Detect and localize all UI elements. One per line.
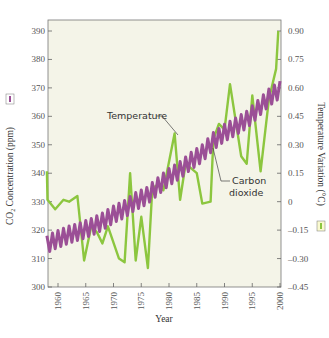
x-tick-label: 1960	[53, 292, 63, 311]
y2-tick-label: 0.75	[288, 54, 304, 64]
y-tick-label: 310	[32, 254, 46, 264]
y-axis-left-title: CO2 Concentration (ppm)	[5, 94, 16, 225]
y-tick-label: 380	[32, 54, 46, 64]
y-tick-label: 320	[32, 225, 46, 235]
y2-tick-label: 0.60	[288, 83, 304, 93]
y2-tick-label: –0.30	[287, 254, 309, 264]
carbon-dioxide-label-line1: Carbon	[232, 175, 266, 186]
y-tick-label: 360	[32, 111, 46, 121]
y2-tick-label: –0.45	[287, 282, 309, 292]
x-tick-label: 1970	[109, 292, 119, 311]
x-axis-title: Year	[155, 314, 173, 324]
y2-tick-label: 0.45	[288, 111, 304, 121]
y-tick-label: 350	[32, 140, 46, 150]
y-tick-label: 370	[32, 83, 46, 93]
x-tick-label: 1965	[81, 292, 91, 311]
x-tick-label: 1985	[192, 292, 202, 311]
y-tick-label: 330	[32, 197, 46, 207]
svg-text:Temperature Variation (°C): Temperature Variation (°C)	[315, 102, 326, 206]
temperature-label: Temperature	[106, 110, 167, 121]
y-tick-label: 340	[32, 168, 46, 178]
y2-tick-label: 0.90	[288, 26, 304, 36]
x-tick-label: 1995	[247, 292, 257, 311]
y-axis-right: –0.45–0.30–0.1500.150.300.450.600.750.90	[277, 26, 309, 292]
y2-tick-label: 0.15	[288, 168, 304, 178]
y2-tick-label: 0.30	[288, 140, 304, 150]
x-tick-label: 1990	[220, 292, 230, 311]
carbon-dioxide-label-line2: dioxide	[229, 187, 263, 198]
x-tick-label: 2000	[275, 292, 285, 311]
y-tick-label: 300	[32, 282, 46, 292]
y2-tick-label: –0.15	[287, 225, 309, 235]
y-tick-label: 390	[32, 26, 46, 36]
x-tick-label: 1980	[164, 292, 174, 311]
chart: 196019651970197519801985199019952000 300…	[0, 0, 329, 338]
y-axis-right-title: Temperature Variation (°C)	[315, 102, 326, 231]
svg-text:CO2 Concentration (ppm): CO2 Concentration (ppm)	[5, 127, 16, 225]
y2-tick-label: 0	[288, 197, 293, 207]
x-tick-label: 1975	[136, 292, 146, 311]
